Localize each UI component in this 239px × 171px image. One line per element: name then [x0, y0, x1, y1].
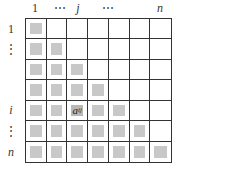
matrix-cell	[88, 39, 109, 59]
filled-entry	[134, 146, 146, 158]
matrix-cell	[109, 19, 130, 39]
matrix-cell	[150, 101, 171, 121]
matrix-cell	[26, 101, 47, 121]
filled-entry	[30, 64, 42, 75]
filled-entry	[30, 84, 42, 95]
matrix-cell	[150, 19, 171, 39]
matrix-cell	[67, 142, 88, 162]
matrix-cell	[26, 80, 47, 100]
matrix-cell	[88, 142, 109, 162]
matrix-cell	[109, 101, 130, 121]
row-label: 1	[1, 22, 21, 37]
matrix-cell	[67, 60, 88, 80]
filled-entry	[154, 146, 167, 158]
matrix-cell	[150, 142, 171, 162]
filled-entry	[51, 125, 63, 136]
matrix-cell	[88, 19, 109, 39]
filled-entry	[30, 105, 42, 116]
matrix-cell	[26, 19, 47, 39]
matrix-cell	[67, 121, 88, 141]
column-label: ⋯	[50, 1, 70, 16]
matrix-cell	[109, 39, 130, 59]
row-label: n	[1, 145, 21, 160]
matrix-cell	[47, 39, 68, 59]
matrix-cell	[88, 60, 109, 80]
filled-entry	[51, 84, 63, 95]
filled-entry	[51, 64, 63, 75]
filled-entry	[134, 125, 146, 136]
matrix-cell	[67, 19, 88, 39]
filled-entry	[71, 84, 83, 95]
matrix-cell	[47, 121, 68, 141]
column-label: 1	[25, 1, 45, 16]
matrix-cell	[130, 19, 151, 39]
matrix-cell	[88, 101, 109, 121]
filled-entry	[30, 43, 42, 54]
matrix-cell	[26, 60, 47, 80]
filled-entry	[113, 125, 125, 136]
filled-entry	[71, 64, 83, 75]
filled-entry	[113, 146, 125, 158]
filled-entry	[92, 105, 104, 116]
row-label: i	[1, 103, 21, 118]
filled-entry	[30, 146, 42, 158]
filled-entry	[30, 23, 42, 34]
filled-entry	[51, 105, 63, 116]
matrix-cell	[150, 121, 171, 141]
filled-entry	[113, 105, 125, 116]
matrix-cell	[47, 80, 68, 100]
matrix-cell	[47, 19, 68, 39]
matrix-cell	[67, 80, 88, 100]
row-label: ⋮	[1, 42, 21, 57]
matrix-cell	[150, 60, 171, 80]
matrix-cell	[47, 101, 68, 121]
matrix-cell	[130, 60, 151, 80]
matrix-cell	[88, 80, 109, 100]
matrix-cell	[109, 80, 130, 100]
matrix-cell	[130, 121, 151, 141]
matrix-cell	[26, 39, 47, 59]
entry-a-ij: aij	[71, 105, 83, 116]
matrix-cell	[109, 60, 130, 80]
matrix-cell	[130, 101, 151, 121]
matrix-cell	[130, 142, 151, 162]
filled-entry	[92, 125, 104, 136]
matrix-cell	[109, 142, 130, 162]
matrix-cell	[88, 121, 109, 141]
filled-entry	[30, 125, 42, 136]
lower-triangular-matrix-grid: aij	[25, 18, 172, 163]
matrix-cell	[150, 39, 171, 59]
column-label: ⋯	[98, 1, 118, 16]
matrix-cell	[109, 121, 130, 141]
filled-entry	[51, 43, 63, 54]
matrix-cell	[26, 142, 47, 162]
matrix-cell: aij	[67, 101, 88, 121]
filled-entry	[92, 146, 104, 158]
row-label: ⋮	[1, 124, 21, 139]
matrix-cell	[26, 121, 47, 141]
matrix-cell	[130, 39, 151, 59]
filled-entry	[71, 125, 83, 136]
matrix-cell	[67, 39, 88, 59]
filled-entry	[71, 146, 83, 158]
matrix-cell	[150, 80, 171, 100]
matrix-cell	[130, 80, 151, 100]
matrix-cell	[47, 60, 68, 80]
filled-entry	[51, 146, 63, 158]
column-label: n	[150, 1, 170, 16]
column-label: j	[68, 1, 88, 16]
filled-entry	[92, 84, 104, 95]
matrix-cell	[47, 142, 68, 162]
